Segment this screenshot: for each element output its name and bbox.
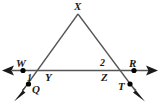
label-angle-1: 1 — [27, 73, 32, 83]
label-point-y: Y — [45, 72, 52, 83]
label-point-r: R — [129, 58, 136, 69]
geometry-figure-canvas: X W R Y Z Q T 1 2 — [0, 0, 160, 112]
geometry-figure-svg — [0, 0, 160, 112]
label-point-t: T — [118, 81, 125, 92]
label-point-z: Z — [101, 72, 108, 83]
label-angle-2: 2 — [100, 58, 105, 68]
label-point-x: X — [74, 1, 81, 12]
point-dot-t — [127, 81, 132, 86]
label-point-q: Q — [32, 84, 40, 95]
label-point-w: W — [16, 58, 26, 69]
